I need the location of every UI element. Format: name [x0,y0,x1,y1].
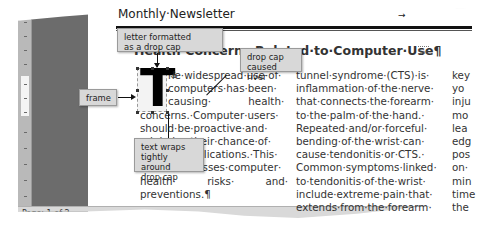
callout-frame: frame [79,89,117,106]
text-line: min [452,175,482,188]
resize-handle[interactable] [136,67,139,70]
text-line: extends·from·the·forearm· [296,201,442,214]
callout-text: drop cap [141,172,197,182]
callout-letter-formatted: letter formatted as a drop cap [117,28,223,52]
callout-text: tightly around [141,152,197,172]
ruler-tick [24,36,27,37]
text-line: cause·tendonitis·or·CTS.· [296,148,442,161]
ruler-tick [24,164,27,165]
text-line: the [452,201,482,214]
text-line: preventions.¶ [140,188,284,201]
text-line: time [452,188,482,201]
text-line: Repeated·and/or·forceful· [296,122,442,135]
ruler-active-region [21,76,29,116]
text-column-3-partial[interactable]: key yo inju mo lea edg pos on· min time … [452,69,482,214]
text-line: bending·of·the·wrist·can· [296,135,442,148]
page-count[interactable]: Page: 1 of 2 [22,209,70,218]
resize-handle[interactable] [136,89,139,92]
resize-handle[interactable] [151,111,154,114]
text-line: yo [452,82,482,95]
text-line: to·the·palm·of·the·hand.· [296,109,442,122]
ruler-tick [24,148,27,149]
callout-text: as a drop cap [124,42,216,52]
text-line: should·be·proactive·and· [140,122,284,135]
callout-arrowhead [131,94,136,100]
callout-text: text wraps [141,142,197,152]
callout-arrowhead [154,63,160,68]
ruler-tick [24,132,27,133]
resize-handle[interactable] [166,67,169,70]
callout-text-wraps: text wraps tightly around drop cap [134,138,204,172]
text-line: that·connects·the·forearm· [296,95,442,108]
ruler-tick [24,196,27,197]
callout-text: letter formatted [124,32,216,42]
text-line: include·extreme·pain·that· [296,188,442,201]
vertical-ruler[interactable] [18,8,32,220]
callout-arrow-line [168,114,169,138]
ruler-tick [24,22,27,23]
newsletter-title: Monthly·Newsletter [118,7,235,21]
text-line: inflammation·of·the·nerve· [296,82,442,95]
text-line: tunnel·syndrome·(CTS)·is· [296,69,442,82]
callout-text: drop cap [247,52,295,62]
resize-handle[interactable] [166,89,169,92]
text-column-2[interactable]: tunnel·syndrome·(CTS)·is· inflammation·o… [296,69,442,214]
text-line: key [452,69,482,82]
text-line: Common·symptoms·linked· [296,161,442,174]
text-line: to·tendonitis·of·the·wrist· [296,175,442,188]
text-line: on· [452,161,482,174]
section-break: Sec [418,46,429,55]
ruler-tick [24,64,27,65]
callout-text: caused river [247,62,295,82]
ruler-tick [24,112,27,113]
text-line: edg [452,135,482,148]
ruler-tick [24,180,27,181]
anchor-icon: ⚓ [170,70,178,80]
ruler-tick [24,98,27,99]
document-margin-area [32,8,88,220]
text-line: inju [452,95,482,108]
callout-drop-cap-river: drop cap caused river [240,48,302,72]
text-line: pos [452,148,482,161]
text-line: mo [452,109,482,122]
tab-marker: → [398,10,406,20]
ruler-tick [24,84,27,85]
resize-handle[interactable] [136,111,139,114]
text-line: lea [452,122,482,135]
ruler-tick [24,50,27,51]
